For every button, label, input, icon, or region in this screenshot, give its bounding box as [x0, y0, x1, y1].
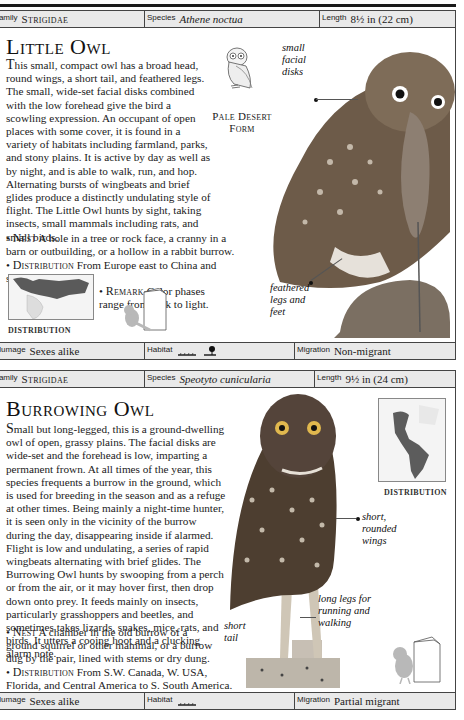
burrowing-owl-photo: [222, 390, 362, 690]
book-silhouette-icon: [120, 288, 172, 332]
family-label: Family: [0, 13, 18, 22]
fact-distribution: • Distribution From S.W. Canada, W. USA,…: [6, 666, 238, 692]
family-cell: Family Strigidae: [0, 371, 145, 387]
species-cell: Species Athene noctua: [145, 11, 320, 27]
family-value: Strigidae: [22, 13, 69, 25]
plumage-cell: Plumage Sexes alike: [0, 693, 145, 709]
migration-cell: Migration Non-migrant: [295, 343, 455, 359]
leader-dot: [309, 281, 313, 285]
length-cell: Length 8½ in (22 cm): [320, 11, 455, 27]
family-cell: Family Strigidae: [0, 11, 145, 27]
annotation-legs: long legs for running and walking: [318, 593, 398, 629]
burrowing-owl-header-bar: Family Strigidae Species Speotyto cunicu…: [0, 370, 456, 388]
migration-value: Partial migrant: [334, 695, 400, 707]
grassland-icon: [176, 695, 200, 707]
little-owl-panel: Little Owl Pale Desert Form small facial…: [0, 28, 456, 342]
plumage-value: Sexes alike: [30, 695, 80, 707]
plumage-value: Sexes alike: [30, 345, 80, 357]
species-value: Speotyto cunicularia: [179, 373, 270, 385]
annotation-legs: feathered legs and feet: [270, 282, 314, 318]
distribution-label: DISTRIBUTION: [8, 326, 71, 335]
species-value: Athene noctua: [179, 13, 242, 25]
migration-label: Migration: [297, 345, 330, 354]
top-rule: [0, 4, 456, 7]
book-silhouette-icon: [388, 636, 444, 684]
plumage-cell: Plumage Sexes alike: [0, 343, 145, 359]
leader-line: [300, 617, 316, 618]
species-label: Species: [147, 373, 175, 382]
habitat-cell: Habitat: [145, 693, 295, 709]
burrowing-owl-panel: Burrowing Owl DISTRIBUTION short, rounde…: [0, 388, 456, 696]
fact-nest: • Nest A chamber in the old burrow of a …: [6, 626, 216, 666]
length-label: Length: [317, 373, 341, 382]
migration-label: Migration: [297, 695, 330, 704]
little-owl-header-bar: Family Strigidae Species Athene noctua L…: [0, 10, 456, 28]
species-cell: Species Speotyto cunicularia: [145, 371, 315, 387]
species-title: Little Owl: [6, 34, 111, 60]
distribution-map: [378, 398, 446, 482]
fact-nest: • Nest A hole in a tree or rock face, a …: [6, 232, 242, 258]
annotation-facial-disks: small facial disks: [282, 42, 324, 78]
pale-desert-form-illustration: [222, 44, 258, 94]
grassland-icon: [176, 345, 220, 357]
length-label: Length: [322, 13, 346, 22]
description-text: mall but long-legged, this is a ground-d…: [6, 423, 225, 659]
leader-dot: [356, 517, 360, 521]
length-value: 8½ in (22 cm): [350, 13, 412, 25]
migration-value: Non-migrant: [334, 345, 391, 357]
length-cell: Length 9½ in (24 cm): [315, 371, 455, 387]
species-label: Species: [147, 13, 175, 22]
annotation-wings: short, rounded wings: [362, 511, 414, 547]
habitat-label: Habitat: [147, 695, 172, 704]
leader-line: [336, 518, 356, 519]
migration-cell: Migration Partial migrant: [295, 693, 455, 709]
species-title: Burrowing Owl: [6, 396, 154, 422]
little-owl-footer-bar: Plumage Sexes alike Habitat Migration No…: [0, 342, 456, 360]
family-label: Family: [0, 373, 18, 382]
plumage-label: Plumage: [0, 695, 26, 704]
burrowing-owl-footer-bar: Plumage Sexes alike Habitat Migration Pa…: [0, 692, 456, 710]
species-description-top: This small, compact owl has a broad head…: [6, 58, 214, 244]
annotation-tail: short tail: [224, 620, 258, 644]
family-value: Strigidae: [22, 373, 69, 385]
habitat-label: Habitat: [147, 345, 172, 354]
distribution-label: DISTRIBUTION: [384, 488, 447, 497]
habitat-cell: Habitat: [145, 343, 295, 359]
plumage-label: Plumage: [0, 345, 26, 354]
leader-line: [316, 99, 358, 100]
description-text: his small, compact owl has a broad head,…: [6, 59, 210, 243]
distribution-map: [8, 274, 94, 320]
length-value: 9½ in (24 cm): [345, 373, 407, 385]
species-description: Small but long-legged, this is a ground-…: [6, 422, 228, 661]
